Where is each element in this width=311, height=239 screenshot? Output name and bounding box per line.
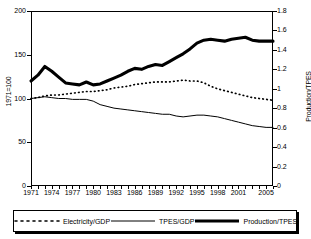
y-axis-right-tick-label: 1.8: [277, 7, 311, 14]
y-axis-right-tick-mark: [273, 167, 277, 168]
y-axis-right-tick-mark: [273, 30, 277, 31]
y-axis-right-tick-mark: [273, 128, 277, 129]
y-axis-right-tick-label: 1: [277, 85, 311, 92]
y-axis-right-tick-mark: [273, 50, 277, 51]
legend-label-electricity-gdp: Electricity/GDP: [63, 218, 110, 225]
y-axis-left-title: 1971=100: [5, 62, 12, 122]
y-axis-right-tick-label: 1.2: [277, 65, 311, 72]
legend-label-tpes-gdp: TPES/GDP: [159, 218, 194, 225]
legend-swatch-thin-solid: [110, 217, 156, 225]
y-axis-right-tick-label: 0.6: [277, 124, 311, 131]
legend-swatch-dotted: [14, 217, 60, 225]
y-axis-left-tick-label: 0: [0, 182, 26, 189]
y-axis-right-tick-mark: [273, 147, 277, 148]
y-axis-right-tick-label: 0: [277, 182, 311, 189]
series-line-tpes-gdp: [31, 97, 273, 128]
y-axis-left-tick-label: 100: [0, 95, 26, 102]
y-axis-right-tick-mark: [273, 69, 277, 70]
line-chart: 1971=100 Production/TPES 050100150200 00…: [0, 0, 311, 239]
y-axis-right-tick-label: 0.4: [277, 143, 311, 150]
y-axis-right-tick-mark: [273, 11, 277, 12]
chart-legend: Electricity/GDP TPES/GDP Production/TPES: [13, 210, 297, 232]
legend-item-production-tpes: Production/TPES: [194, 217, 297, 225]
y-axis-right-tick-label: 1.4: [277, 46, 311, 53]
y-axis-left-tick-label: 200: [0, 7, 26, 14]
y-axis-right-tick-label: 1.6: [277, 26, 311, 33]
y-axis-left-tick-label: 150: [0, 51, 26, 58]
legend-item-tpes-gdp: TPES/GDP: [110, 217, 194, 225]
y-axis-right-tick-mark: [273, 89, 277, 90]
y-axis-left-tick-label: 50: [0, 138, 26, 145]
x-axis-tick-label: 2001: [223, 189, 253, 196]
legend-swatch-thick-solid: [194, 217, 240, 225]
legend-label-production-tpes: Production/TPES: [243, 218, 297, 225]
y-axis-right-tick-label: 0.8: [277, 104, 311, 111]
y-axis-right-tick-label: 0.2: [277, 163, 311, 170]
x-axis-tick-label: 2005: [251, 189, 281, 196]
legend-item-electricity-gdp: Electricity/GDP: [14, 217, 110, 225]
y-axis-right-tick-mark: [273, 108, 277, 109]
series-line-production-tpes: [31, 37, 273, 85]
series-layer: [31, 11, 273, 186]
